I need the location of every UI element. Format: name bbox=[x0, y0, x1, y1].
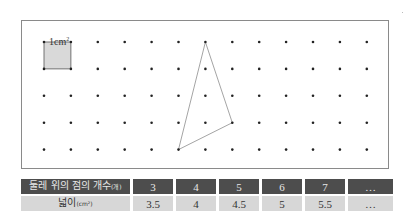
dot-grid-frame: 1cm2 bbox=[21, 20, 389, 169]
grid-dot bbox=[70, 41, 73, 44]
grid-dot bbox=[204, 148, 207, 151]
table-row-perimeter-points: 둘레 위의 점의 개수(개) 3 4 5 6 7 … bbox=[21, 179, 393, 194]
table-cell: 5 bbox=[262, 196, 302, 211]
grid-dot bbox=[123, 121, 126, 124]
grid-dot bbox=[312, 121, 315, 124]
grid-dot bbox=[366, 121, 369, 124]
grid-dot bbox=[339, 148, 342, 151]
grid-dot bbox=[70, 121, 73, 124]
grid-dot bbox=[43, 68, 46, 71]
grid-dot bbox=[150, 41, 153, 44]
row-header-perimeter-points: 둘레 위의 점의 개수(개) bbox=[21, 179, 130, 194]
grid-dot bbox=[312, 41, 315, 44]
grid-dot bbox=[231, 41, 234, 44]
grid-dot bbox=[258, 121, 261, 124]
grid-dot bbox=[339, 41, 342, 44]
grid-dot bbox=[204, 95, 207, 98]
table-cell: 5 bbox=[219, 179, 259, 194]
table-cell: 3.5 bbox=[133, 196, 173, 211]
grid-dot bbox=[123, 148, 126, 151]
grid-dot bbox=[123, 68, 126, 71]
grid-dot bbox=[97, 148, 100, 151]
grid-dot bbox=[177, 121, 180, 124]
grid-dot bbox=[123, 95, 126, 98]
grid-dot bbox=[285, 41, 288, 44]
grid-dot bbox=[43, 41, 46, 44]
grid-dot bbox=[97, 121, 100, 124]
grid-dot bbox=[43, 121, 46, 124]
table-cell: 6 bbox=[262, 179, 302, 194]
grid-dot bbox=[177, 148, 180, 151]
table-cell: 4 bbox=[176, 179, 216, 194]
grid-dot bbox=[43, 148, 46, 151]
grid-dot bbox=[204, 68, 207, 71]
grid-dot bbox=[258, 41, 261, 44]
grid-dot bbox=[339, 68, 342, 71]
grid-dot bbox=[177, 41, 180, 44]
grid-dot bbox=[285, 68, 288, 71]
table-cell: 5.5 bbox=[305, 196, 345, 211]
table-cell-ellipsis: … bbox=[348, 179, 393, 194]
unit-square-label: 1cm2 bbox=[49, 36, 69, 47]
grid-dot bbox=[312, 95, 315, 98]
row-header-area: 넓이(cm²) bbox=[21, 196, 130, 211]
table-cell: 7 bbox=[305, 179, 345, 194]
grid-dot bbox=[177, 95, 180, 98]
grid-dot bbox=[366, 68, 369, 71]
grid-dot bbox=[97, 95, 100, 98]
grid-dot bbox=[97, 41, 100, 44]
grid-dot bbox=[204, 121, 207, 124]
table-cell: 4 bbox=[176, 196, 216, 211]
grid-dot bbox=[150, 95, 153, 98]
grid-dot bbox=[204, 41, 207, 44]
grid-dot bbox=[285, 148, 288, 151]
table-cell: 4.5 bbox=[219, 196, 259, 211]
grid-dot bbox=[43, 95, 46, 98]
grid-dot bbox=[312, 148, 315, 151]
grid-dot bbox=[97, 68, 100, 71]
grid-dot bbox=[312, 68, 315, 71]
grid-dot bbox=[258, 68, 261, 71]
grid-dot bbox=[150, 68, 153, 71]
grid-dot bbox=[366, 148, 369, 151]
grid-dot bbox=[150, 121, 153, 124]
grid-dot bbox=[70, 148, 73, 151]
grid-dot bbox=[231, 148, 234, 151]
table-cell: 3 bbox=[133, 179, 173, 194]
grid-dot bbox=[258, 148, 261, 151]
grid-dot bbox=[150, 148, 153, 151]
grid-dot bbox=[366, 95, 369, 98]
grid-dot bbox=[177, 68, 180, 71]
grid-dot bbox=[339, 121, 342, 124]
stray-mark bbox=[402, 12, 403, 13]
grid-dot bbox=[231, 95, 234, 98]
grid-dot bbox=[70, 68, 73, 71]
grid-dot bbox=[123, 41, 126, 44]
grid-dot bbox=[231, 68, 234, 71]
grid-dot bbox=[70, 95, 73, 98]
grid-dot bbox=[285, 121, 288, 124]
grid-dot bbox=[339, 95, 342, 98]
grid-dot bbox=[231, 121, 234, 124]
perimeter-area-table: 둘레 위의 점의 개수(개) 3 4 5 6 7 … 넓이(cm²) 3.5 4… bbox=[18, 177, 396, 213]
table-row-area: 넓이(cm²) 3.5 4 4.5 5 5.5 … bbox=[21, 196, 393, 211]
dot-grid bbox=[22, 21, 390, 170]
grid-dot bbox=[285, 95, 288, 98]
grid-dot bbox=[366, 41, 369, 44]
grid-dot bbox=[258, 95, 261, 98]
table-cell-ellipsis: … bbox=[348, 196, 393, 211]
